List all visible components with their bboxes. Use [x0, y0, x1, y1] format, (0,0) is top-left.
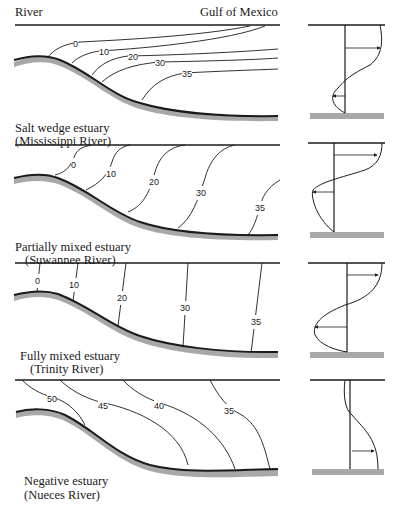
isohaline-label: 0: [71, 158, 76, 172]
isohaline-label: 30: [196, 186, 206, 200]
isohaline-label: 30: [155, 56, 165, 70]
isohaline-label: 35: [251, 315, 261, 329]
isohaline-label: 10: [69, 278, 79, 292]
panel-example: (Nueces River): [24, 488, 100, 502]
isohaline-label: 0: [73, 37, 78, 51]
panel-negative: [15, 380, 385, 477]
isohaline-label: 20: [117, 291, 127, 305]
panel-example: (Mississippi River): [15, 134, 111, 148]
panel-salt-wedge: [14, 25, 385, 121]
panel-title: Fully mixed estuary: [20, 349, 120, 363]
isohaline-label: 10: [106, 167, 116, 181]
isohaline-label: 45: [98, 399, 108, 413]
isohaline-label: 20: [149, 175, 159, 189]
isohaline-label: 35: [255, 201, 265, 215]
isohaline-label: 35: [182, 67, 192, 81]
panel-title: Negative estuary: [24, 474, 108, 488]
panel-title: Partially mixed estuary: [15, 240, 131, 254]
isohaline-label: 30: [180, 301, 190, 315]
isohaline-label: 10: [99, 45, 109, 59]
panel-example: (Suwannee River): [25, 253, 116, 267]
panel-example: (Trinity River): [30, 362, 104, 376]
gulf-of-mexico-label: Gulf of Mexico: [200, 5, 278, 19]
isohaline-label: 40: [154, 399, 164, 413]
isohaline-label: 0: [35, 274, 40, 288]
panel-title: Salt wedge estuary: [15, 121, 109, 135]
isohaline-label: 50: [47, 392, 57, 406]
isohaline-label: 20: [128, 50, 138, 64]
river-label: River: [15, 5, 43, 19]
isohaline-label: 35: [224, 404, 234, 418]
